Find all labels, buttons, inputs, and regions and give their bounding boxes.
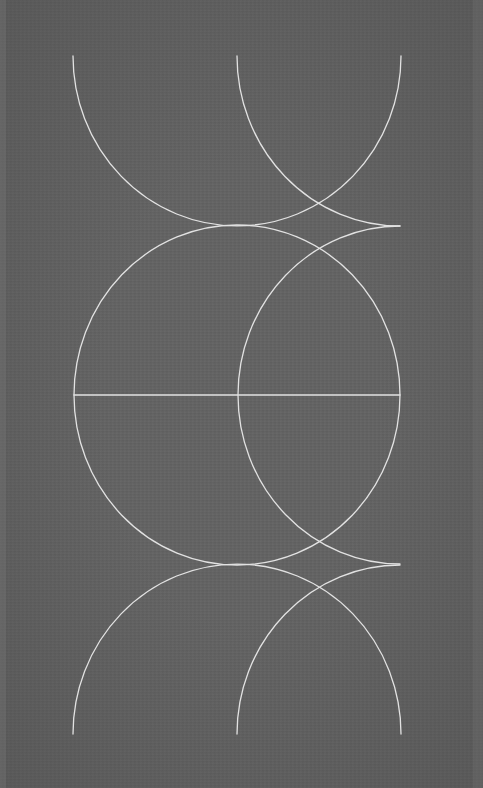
top-left-semicircle-arc <box>73 56 401 226</box>
top-right-quarter-arc <box>237 56 400 226</box>
geometric-circles-drawing <box>0 0 483 788</box>
bottom-left-semicircle-arc <box>73 564 401 734</box>
artwork-canvas <box>0 0 483 788</box>
bottom-right-quarter-arc <box>237 565 400 734</box>
